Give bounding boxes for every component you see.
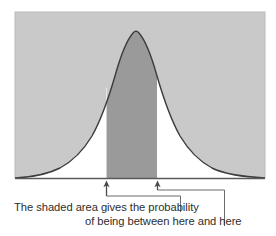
right-boundary-arrow	[154, 181, 160, 191]
leader-line-outer	[158, 190, 225, 226]
left-boundary-arrow	[103, 181, 109, 197]
figure-canvas	[0, 0, 276, 236]
probability-figure: The shaded area gives the probability of…	[0, 0, 276, 236]
leader-line-inner	[107, 196, 181, 212]
